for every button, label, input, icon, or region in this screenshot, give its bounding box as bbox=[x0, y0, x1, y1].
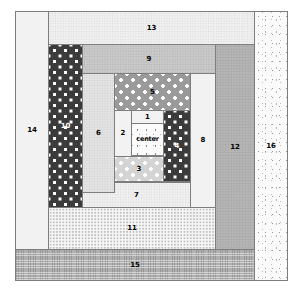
quilt-piece-label-10: 10 bbox=[61, 123, 71, 130]
quilt-piece-6: 6 bbox=[82, 73, 115, 193]
quilt-piece-11: 11 bbox=[48, 207, 216, 250]
quilt-piece-16: 16 bbox=[254, 11, 288, 281]
log-cabin-quilt-block: 16141315121110987654321center bbox=[0, 0, 301, 292]
quilt-piece-14: 14 bbox=[15, 11, 49, 250]
quilt-piece-label-12: 12 bbox=[230, 144, 240, 151]
quilt-piece-label-7: 7 bbox=[134, 192, 139, 199]
quilt-piece-5: 5 bbox=[114, 73, 191, 111]
quilt-piece-4: 4 bbox=[163, 110, 191, 182]
quilt-piece-13: 13 bbox=[48, 11, 255, 45]
quilt-piece-9: 9 bbox=[82, 44, 216, 74]
quilt-piece-10: 10 bbox=[48, 44, 83, 208]
quilt-piece-2: 2 bbox=[114, 110, 132, 157]
quilt-piece-label-2: 2 bbox=[121, 130, 126, 137]
quilt-piece-label-11: 11 bbox=[127, 225, 137, 232]
quilt-piece-3: 3 bbox=[114, 156, 164, 182]
quilt-piece-15: 15 bbox=[15, 249, 255, 281]
quilt-piece-label-9: 9 bbox=[147, 56, 152, 63]
quilt-piece-label-16: 16 bbox=[266, 143, 276, 150]
quilt-piece-label-3: 3 bbox=[137, 166, 142, 173]
quilt-piece-label-6: 6 bbox=[96, 130, 101, 137]
quilt-piece-label-15: 15 bbox=[130, 262, 140, 269]
quilt-piece-label-5: 5 bbox=[150, 89, 155, 96]
quilt-piece-label-14: 14 bbox=[27, 127, 37, 134]
quilt-piece-12: 12 bbox=[215, 44, 255, 250]
quilt-piece-label-1: 1 bbox=[145, 114, 150, 121]
quilt-piece-label-center: center bbox=[136, 136, 158, 143]
quilt-piece-1: 1 bbox=[131, 110, 164, 124]
quilt-piece-label-8: 8 bbox=[201, 137, 206, 144]
quilt-piece-8: 8 bbox=[190, 73, 216, 208]
quilt-piece-label-4: 4 bbox=[175, 143, 180, 150]
quilt-piece-center: center bbox=[131, 123, 164, 156]
quilt-piece-label-13: 13 bbox=[147, 25, 157, 32]
